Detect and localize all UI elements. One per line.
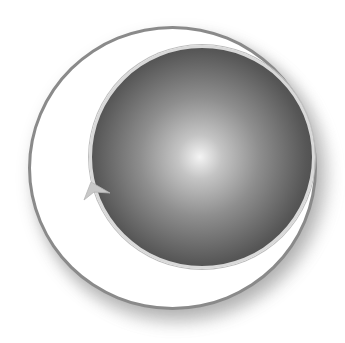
arrow-notch-icon bbox=[82, 178, 112, 202]
sphere-icon bbox=[89, 45, 315, 269]
emblem-canvas: Grayscale circular emblem: white ring wi… bbox=[0, 0, 345, 343]
